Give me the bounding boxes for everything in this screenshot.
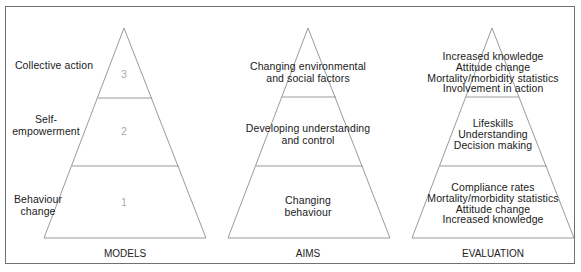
level-number-1: 1 bbox=[114, 197, 134, 208]
label-line: Attitude change bbox=[413, 62, 573, 73]
label-line: behaviour bbox=[238, 207, 378, 219]
label-line: Behaviour bbox=[6, 194, 70, 206]
label-line: change bbox=[6, 206, 70, 218]
label-line: Changing bbox=[238, 195, 378, 207]
level-number-2: 2 bbox=[114, 126, 134, 137]
caption-models: MODELS bbox=[65, 248, 185, 259]
label-line: Understanding bbox=[413, 129, 573, 140]
level-number-3: 3 bbox=[114, 69, 134, 80]
model-label-behaviour-change: Behaviour change bbox=[6, 194, 70, 217]
label-line: Involvement in action bbox=[413, 83, 573, 94]
caption-aims: AIMS bbox=[248, 248, 368, 259]
evaluation-level-1: Compliance rates Mortality/morbidity sta… bbox=[413, 182, 573, 225]
label-line: Mortality/morbidity statistics bbox=[413, 193, 573, 204]
label-line: and social factors bbox=[238, 73, 378, 85]
label-line: Developing understanding bbox=[238, 123, 378, 135]
label-line: Decision making bbox=[413, 140, 573, 151]
aim-level-1: Changing behaviour bbox=[238, 195, 378, 218]
evaluation-level-3: Increased knowledge Attitude change Mort… bbox=[413, 51, 573, 94]
label-line: Changing environmental bbox=[238, 61, 378, 73]
label-line: empowerment bbox=[4, 126, 88, 138]
label-line: Increased knowledge bbox=[413, 214, 573, 225]
model-label-self-empowerment: Self- empowerment bbox=[4, 114, 88, 137]
model-label-collective-action: Collective action bbox=[8, 60, 100, 72]
caption-evaluation: EVALUATION bbox=[433, 248, 553, 259]
evaluation-level-2: Lifeskills Understanding Decision making bbox=[413, 118, 573, 150]
label-line: Collective action bbox=[8, 60, 100, 72]
aim-level-2: Developing understanding and control bbox=[238, 123, 378, 146]
label-line: Self- bbox=[4, 114, 88, 126]
label-line: and control bbox=[238, 135, 378, 147]
aim-level-3: Changing environmental and social factor… bbox=[238, 61, 378, 84]
